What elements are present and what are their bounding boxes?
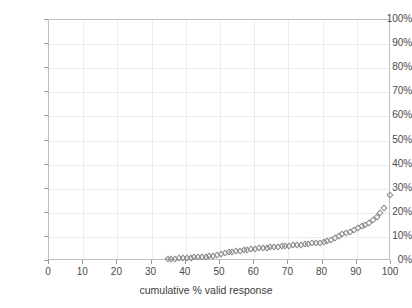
y-axis-tick-mark — [44, 188, 48, 189]
gridline-horizontal — [49, 213, 389, 214]
gridline-horizontal — [49, 141, 389, 142]
y-axis-tick-label: 90% — [370, 38, 412, 48]
y-axis-tick-label: 70% — [370, 86, 412, 96]
gridline-vertical — [220, 20, 221, 259]
gridline-horizontal — [49, 116, 389, 117]
gridline-horizontal — [49, 165, 389, 166]
x-axis-title: cumulative % valid response — [0, 284, 412, 296]
y-axis-tick-label: 30% — [370, 183, 412, 193]
gridline-horizontal — [49, 92, 389, 93]
gridline-vertical — [323, 20, 324, 259]
x-axis-tick-mark — [253, 260, 254, 264]
y-axis-tick-mark — [44, 43, 48, 44]
x-axis-tick-mark — [48, 260, 49, 264]
y-axis-tick-label: 10% — [370, 231, 412, 241]
gridline-horizontal — [49, 189, 389, 190]
x-axis-tick-mark — [82, 260, 83, 264]
y-axis-tick-label: 60% — [370, 110, 412, 120]
y-axis-tick-mark — [44, 115, 48, 116]
gridline-vertical — [117, 20, 118, 259]
gridline-vertical — [254, 20, 255, 259]
gridline-vertical — [152, 20, 153, 259]
y-axis-tick-mark — [44, 67, 48, 68]
gridline-vertical — [288, 20, 289, 259]
y-axis-tick-mark — [44, 19, 48, 20]
y-axis-tick-mark — [44, 140, 48, 141]
x-axis-tick-mark — [116, 260, 117, 264]
x-axis-tick-mark — [219, 260, 220, 264]
x-axis-tick-mark — [322, 260, 323, 264]
y-axis-tick-label: 0% — [370, 255, 412, 265]
x-axis-tick-mark — [390, 260, 391, 264]
chart-container: 0%10%20%30%40%50%60%70%80%90%100%0102030… — [0, 0, 412, 308]
y-axis-tick-mark — [44, 236, 48, 237]
x-axis-tick-mark — [151, 260, 152, 264]
plot-area — [48, 19, 390, 260]
y-axis-tick-label: 80% — [370, 62, 412, 72]
gridline-vertical — [83, 20, 84, 259]
x-axis-tick-label: 100 — [370, 267, 410, 277]
x-axis-tick-mark — [356, 260, 357, 264]
y-axis-tick-mark — [44, 164, 48, 165]
y-axis-tick-mark — [44, 91, 48, 92]
gridline-vertical — [186, 20, 187, 259]
y-axis-tick-label: 100% — [370, 14, 412, 24]
y-axis-tick-label: 40% — [370, 159, 412, 169]
gridline-horizontal — [49, 68, 389, 69]
gridline-horizontal — [49, 44, 389, 45]
y-axis-tick-label: 50% — [370, 135, 412, 145]
y-axis-tick-mark — [44, 212, 48, 213]
x-axis-tick-mark — [287, 260, 288, 264]
